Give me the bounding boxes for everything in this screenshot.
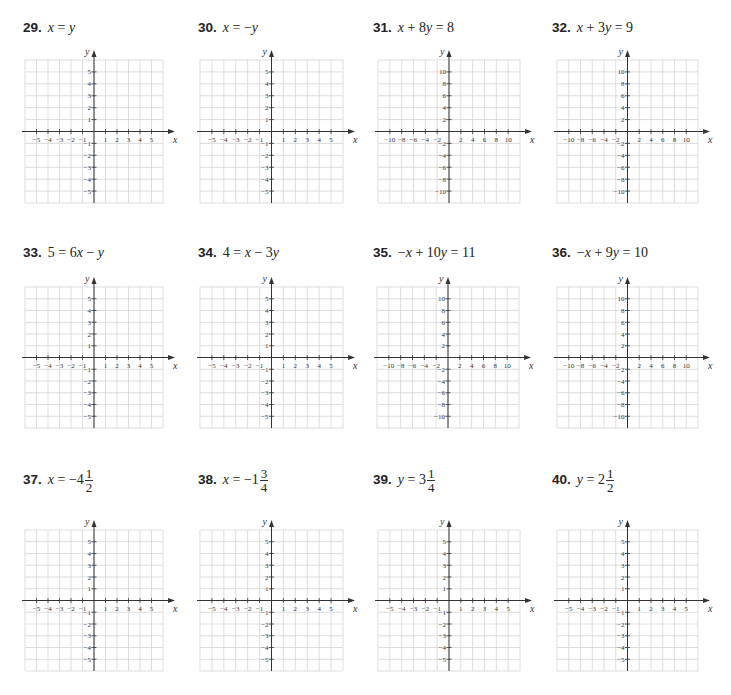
y-tick-label: −1	[261, 366, 269, 374]
x-tick-label: −4	[577, 605, 585, 613]
x-tick-label: −5	[208, 605, 216, 613]
x-tick-label: 3	[306, 136, 310, 144]
y-tick-label: 4	[265, 307, 269, 315]
equation: −x + 9y = 10	[577, 245, 648, 260]
y-tick-label: 3	[265, 92, 269, 100]
coordinate-grid[interactable]: xy−5−5−4−4−3−3−2−2−1−11122334455	[10, 515, 178, 686]
x-tick-label: 4	[138, 362, 142, 370]
y-tick-label: −8	[617, 401, 625, 409]
x-tick-label: −4	[220, 362, 228, 370]
x-tick-label: −8	[577, 136, 585, 144]
x-tick-label: 6	[483, 136, 487, 144]
y-tick-label: 4	[88, 307, 92, 315]
y-tick-label: −4	[84, 644, 92, 652]
x-tick-label: 5	[329, 136, 333, 144]
x-tick-label: 6	[661, 362, 665, 370]
problem-number: 30.	[198, 20, 217, 35]
y-tick-label: 2	[88, 104, 92, 112]
x-tick-label: −6	[589, 362, 597, 370]
x-axis-label: x	[707, 360, 713, 371]
x-tick-label: −4	[600, 362, 608, 370]
y-tick-label: −1	[439, 609, 447, 617]
x-tick-label: −2	[422, 605, 430, 613]
y-tick-label: −4	[438, 378, 446, 386]
x-tick-label: 3	[306, 362, 310, 370]
x-tick-label: 5	[685, 605, 689, 613]
x-tick-label: 4	[138, 605, 142, 613]
coordinate-grid[interactable]: xy−5−5−4−4−3−3−2−2−1−11122334455	[10, 45, 178, 218]
y-tick-label: 3	[88, 562, 92, 570]
y-tick-label: −3	[439, 632, 447, 640]
x-tick-label: 10	[683, 362, 691, 370]
y-tick-label: 10	[439, 68, 447, 76]
y-tick-label: 5	[88, 68, 92, 76]
coordinate-grid[interactable]: xy−5−5−4−4−3−3−2−2−1−11122334455	[185, 45, 358, 218]
coordinate-grid[interactable]: xy−10−10−8−8−6−6−4−4−2−2224466881010	[542, 45, 713, 218]
y-tick-label: −4	[617, 644, 625, 652]
x-tick-label: 6	[661, 136, 665, 144]
coordinate-grid[interactable]: xy−10−10−8−8−6−6−4−4−2−2224466881010	[542, 272, 713, 443]
x-tick-label: 5	[329, 362, 333, 370]
x-axis-label: x	[707, 134, 713, 145]
y-tick-label: 4	[88, 550, 92, 558]
x-tick-label: −3	[232, 136, 240, 144]
problem-label: 37.x = −412	[23, 467, 93, 494]
coordinate-grid[interactable]: xy−10−10−8−8−6−6−4−4−2−2224466881010	[362, 272, 534, 443]
y-tick-label: −1	[261, 609, 269, 617]
x-tick-label: 5	[150, 136, 154, 144]
y-tick-label: 5	[265, 295, 269, 303]
coordinate-grid[interactable]: xy−5−5−4−4−3−3−2−2−1−11122334455	[363, 515, 535, 686]
x-tick-label: −10	[384, 136, 395, 144]
x-tick-label: 4	[138, 136, 142, 144]
y-axis-arrow-icon	[446, 277, 451, 284]
y-tick-label: 5	[88, 538, 92, 546]
y-tick-label: 1	[265, 585, 269, 593]
x-axis-label: x	[352, 134, 358, 145]
problem-number: 36.	[552, 245, 571, 260]
x-axis-label: x	[707, 603, 713, 614]
y-tick-label: 5	[265, 68, 269, 76]
y-axis-arrow-icon	[92, 50, 97, 57]
x-tick-label: 3	[127, 136, 131, 144]
y-axis-label: y	[262, 46, 268, 57]
x-tick-label: −4	[44, 136, 52, 144]
problem-label: 33.5 = 6x − y	[23, 245, 104, 261]
y-tick-label: 2	[621, 116, 625, 124]
problem-number: 37.	[23, 472, 42, 487]
equation: y = 212	[577, 472, 615, 487]
coordinate-grid[interactable]: xy−10−10−8−8−6−6−4−4−2−2224466881010	[363, 45, 535, 218]
x-axis-label: x	[172, 360, 178, 371]
y-tick-label: 8	[442, 307, 446, 315]
equation: x = y	[48, 20, 75, 35]
fraction: 14	[427, 467, 436, 494]
y-tick-label: 6	[621, 92, 625, 100]
problem-label: 36.−x + 9y = 10	[552, 245, 648, 261]
problem-number: 38.	[198, 472, 217, 487]
y-tick-label: −2	[438, 366, 446, 374]
x-tick-label: −2	[67, 605, 75, 613]
y-tick-label: 4	[442, 331, 446, 339]
coordinate-grid[interactable]: xy−5−5−4−4−3−3−2−2−1−11122334455	[10, 272, 178, 443]
y-axis-label: y	[439, 46, 445, 57]
y-tick-label: −4	[439, 644, 447, 652]
y-tick-label: −4	[439, 152, 447, 160]
x-tick-label: 3	[483, 605, 487, 613]
x-axis-label: x	[352, 360, 358, 371]
y-tick-label: −5	[617, 656, 625, 664]
y-tick-label: 4	[265, 80, 269, 88]
y-tick-label: −2	[261, 378, 269, 386]
x-tick-label: −8	[577, 362, 585, 370]
x-tick-label: −3	[232, 605, 240, 613]
x-tick-label: −8	[398, 136, 406, 144]
coordinate-grid[interactable]: xy−5−5−4−4−3−3−2−2−1−11122334455	[185, 515, 358, 686]
coordinate-grid[interactable]: xy−5−5−4−4−3−3−2−2−1−11122334455	[542, 515, 713, 686]
x-tick-label: −3	[56, 605, 64, 613]
x-tick-label: −2	[244, 362, 252, 370]
x-tick-label: −3	[56, 362, 64, 370]
y-tick-label: 2	[621, 574, 625, 582]
x-tick-label: −2	[600, 605, 608, 613]
coordinate-grid[interactable]: xy−5−5−4−4−3−3−2−2−1−11122334455	[185, 272, 358, 443]
x-tick-label: −10	[383, 362, 394, 370]
y-tick-label: 1	[265, 342, 269, 350]
equation: x = −y	[223, 20, 258, 35]
